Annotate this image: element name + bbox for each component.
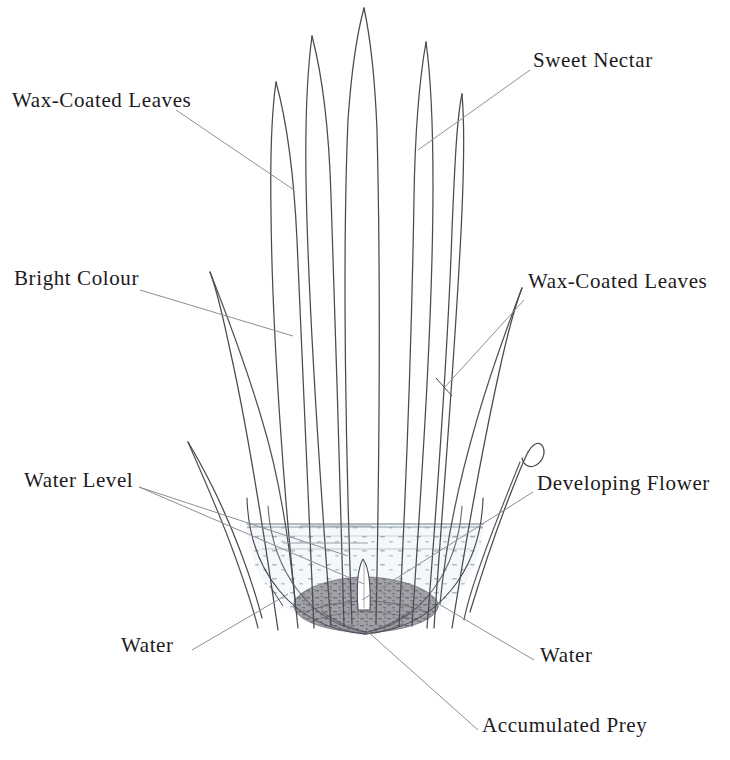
- diagram-canvas: Wax-Coated Leaves Sweet Nectar Bright Co…: [0, 0, 730, 760]
- leader-wax-coated-leaves-left: [176, 110, 294, 190]
- leader-water-right: [432, 600, 534, 660]
- label-developing-flower: Developing Flower: [537, 471, 710, 496]
- label-accumulated-prey: Accumulated Prey: [482, 713, 647, 738]
- label-wax-coated-leaves-right: Wax-Coated Leaves: [528, 269, 707, 294]
- leader-water-level-b: [139, 487, 348, 556]
- label-wax-coated-leaves-left: Wax-Coated Leaves: [12, 88, 191, 113]
- leader-water-left: [192, 594, 288, 650]
- plant-illustration: [0, 0, 730, 760]
- label-water-left: Water: [121, 633, 174, 658]
- label-bright-colour: Bright Colour: [14, 266, 139, 291]
- leader-accumulated-prey: [366, 630, 478, 730]
- label-sweet-nectar: Sweet Nectar: [533, 48, 653, 73]
- label-water-level: Water Level: [24, 468, 133, 493]
- leader-sweet-nectar: [418, 70, 530, 150]
- leader-bright-colour: [140, 290, 293, 336]
- label-water-right: Water: [540, 643, 593, 668]
